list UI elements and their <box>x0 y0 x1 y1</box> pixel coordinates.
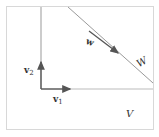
vector-space-diagram: v1 v2 w W V <box>0 0 159 137</box>
label-V: V <box>126 108 135 119</box>
label-v1: v1 <box>52 94 63 106</box>
label-v2: v2 <box>23 65 34 77</box>
label-w: w <box>84 36 96 48</box>
subspace-line-W <box>68 7 153 83</box>
label-W: W <box>135 54 150 69</box>
